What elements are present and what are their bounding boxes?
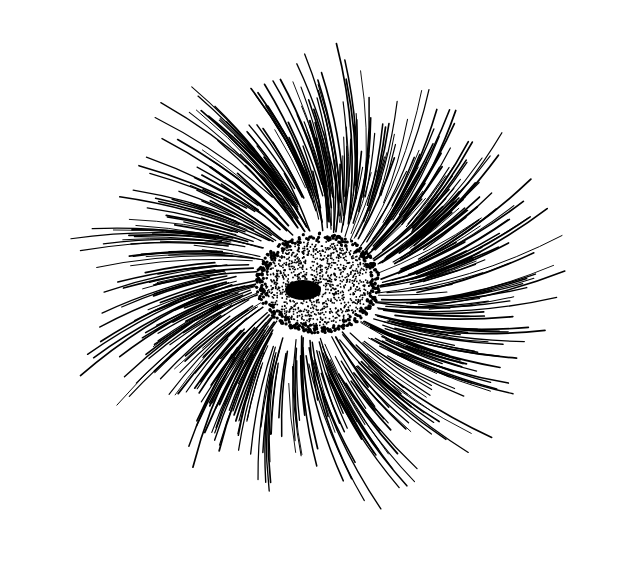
swirl-illustration bbox=[0, 0, 619, 576]
